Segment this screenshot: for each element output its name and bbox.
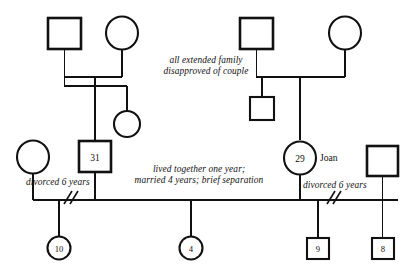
node-husband-age: 31: [90, 153, 100, 163]
node-paternal-grandmother: [106, 17, 138, 50]
node-joan-age: 29: [295, 154, 305, 164]
annotation-extended-family: all extended family disapproved of coupl…: [152, 55, 260, 78]
genogram-canvas: 31 29 10 4 9: [0, 0, 414, 279]
node-child-10-age: 10: [55, 244, 64, 254]
annotation-extended-family-line1: all extended family: [169, 55, 242, 65]
node-child-9-age: 9: [316, 244, 320, 254]
annotation-divorce-left: divorced 6 years: [26, 177, 90, 188]
annotation-extended-family-line2: disapproved of couple: [163, 66, 248, 76]
annotation-divorce-right: divorced 6 years: [303, 180, 367, 191]
genogram-svg: 31 29 10 4 9: [0, 0, 414, 279]
node-child-8-age: 8: [381, 244, 385, 254]
node-paternal-sister: [114, 111, 140, 137]
node-ex-wife: [17, 141, 49, 174]
node-ex-husband: [367, 146, 398, 176]
node-child-4-age: 4: [189, 244, 194, 254]
annotation-couple-history: lived together one year; married 4 years…: [124, 164, 274, 187]
annotation-couple-history-line2: married 4 years; brief separation: [135, 175, 264, 185]
link-paternal-marriage: [65, 49, 123, 77]
link-paternal-sibship-left: [65, 77, 128, 86]
link-maternal-marriage: [257, 49, 346, 77]
node-maternal-brother: [250, 97, 274, 120]
annotation-couple-history-line1: lived together one year;: [153, 164, 245, 174]
node-maternal-grandfather: [240, 18, 273, 49]
node-maternal-grandmother: [329, 17, 361, 50]
node-joan-name: Joan: [320, 152, 338, 163]
node-paternal-grandfather: [48, 18, 81, 49]
